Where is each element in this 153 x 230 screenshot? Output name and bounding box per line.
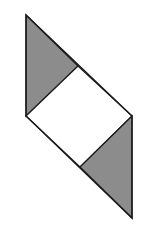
parallelogram-diagram (0, 0, 153, 230)
